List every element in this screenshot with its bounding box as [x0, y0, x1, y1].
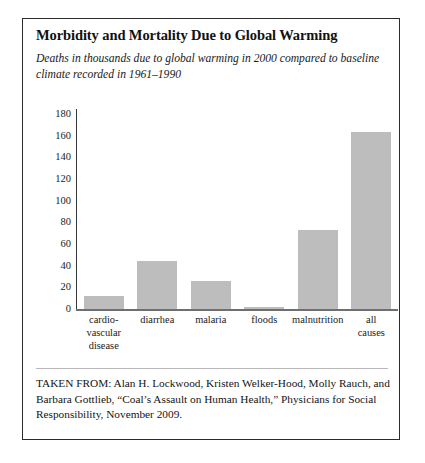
- chart-plot-area: 020406080100120140160180 cardio-vascular…: [23, 19, 401, 367]
- bar: [137, 261, 177, 309]
- bar: [298, 230, 338, 309]
- x-axis-line: [76, 309, 398, 311]
- bar: [191, 281, 231, 309]
- bar-series: [23, 19, 401, 309]
- x-axis-tick-label: allcauses: [339, 314, 405, 340]
- x-axis-tick-label-line: vascular: [71, 327, 137, 340]
- bar: [84, 296, 124, 309]
- figure-inner: Morbidity and Mortality Due to Global Wa…: [23, 19, 399, 439]
- x-axis-tick-label-line: all: [339, 314, 405, 327]
- bar: [351, 132, 391, 309]
- bar: [244, 307, 284, 309]
- figure-container: Morbidity and Mortality Due to Global Wa…: [22, 18, 400, 440]
- x-axis-tick-label-line: disease: [71, 340, 137, 353]
- divider: [36, 368, 388, 369]
- x-axis-tick-label-line: causes: [339, 327, 405, 340]
- source-citation: TAKEN FROM: Alan H. Lockwood, Kristen We…: [36, 376, 390, 423]
